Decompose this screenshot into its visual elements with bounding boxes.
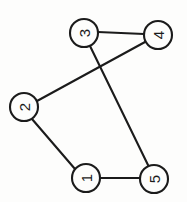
graph-node-3[interactable]: 3	[70, 19, 98, 47]
graph-svg: 34215	[0, 0, 187, 202]
graph-node-label-5: 5	[146, 175, 163, 183]
graph-node-4[interactable]: 4	[144, 21, 172, 49]
graph-node-label-1: 1	[78, 174, 95, 182]
edge-2-1	[32, 119, 75, 169]
graph-node-label-2: 2	[16, 103, 33, 111]
edge-3-4	[98, 32, 144, 34]
graph-diagram-canvas: 34215	[0, 0, 187, 202]
graph-node-2[interactable]: 2	[10, 93, 38, 121]
graph-node-label-4: 4	[150, 31, 167, 39]
graph-node-label-3: 3	[76, 29, 93, 37]
graph-node-1[interactable]: 1	[72, 164, 100, 192]
graph-nodes-layer: 34215	[10, 19, 172, 193]
graph-node-5[interactable]: 5	[140, 165, 168, 193]
graph-edges-layer	[32, 32, 148, 178]
edge-2-4	[37, 42, 145, 101]
edge-3-5	[90, 46, 148, 165]
